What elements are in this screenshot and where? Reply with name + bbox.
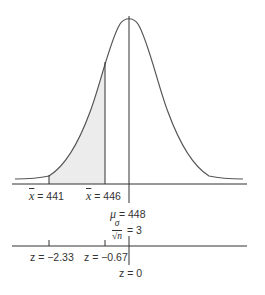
z-label-neg233: z = −2.33	[30, 252, 74, 263]
x-value: = 441	[34, 190, 64, 202]
sigma-symbol: σ	[112, 219, 122, 231]
shaded-area	[49, 62, 105, 184]
normal-distribution-diagram: x = 441 x = 446 μ = 448 σ √n = 3 z = −2.…	[0, 0, 265, 295]
standard-error-value: = 3	[127, 225, 142, 236]
x-value: = 446	[91, 190, 121, 202]
z-label-neg067: z = −0.67	[84, 252, 128, 263]
z-label-0: z = 0	[119, 268, 142, 279]
x-label-441: x = 441	[29, 190, 64, 202]
standard-error-fraction: σ √n	[112, 219, 122, 241]
sqrt-n-symbol: √n	[112, 231, 122, 242]
x-label-446: x = 446	[86, 190, 121, 202]
